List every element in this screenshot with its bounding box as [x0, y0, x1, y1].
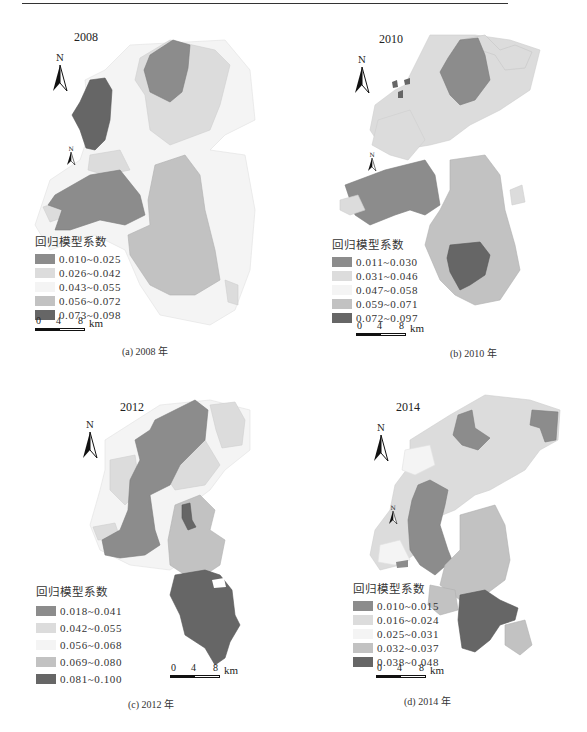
legend-title: 回归模型系数 — [353, 580, 439, 596]
legend-label: 0.042~0.055 — [60, 622, 122, 634]
north-arrow-small-icon: N — [66, 145, 76, 167]
legend-row: 0.010~0.015 — [353, 599, 439, 613]
north-arrow-icon: N — [80, 420, 100, 460]
scale-tick-4: 4 — [397, 662, 402, 673]
scale-unit: km — [410, 322, 424, 334]
legend-row: 0.026~0.042 — [35, 266, 121, 280]
legend-swatch — [332, 299, 352, 309]
legend-swatch — [35, 282, 55, 292]
legend-label: 0.026~0.042 — [59, 267, 121, 279]
legend-label: 0.025~0.031 — [377, 628, 439, 640]
legend-row: 0.042~0.055 — [36, 619, 122, 636]
legend-label: 0.047~0.058 — [356, 284, 418, 296]
north-label: N — [80, 420, 100, 430]
legend: 回归模型系数 0.010~0.025 0.026~0.042 0.043~0.0… — [35, 233, 121, 322]
legend-row: 0.056~0.072 — [35, 294, 121, 308]
scale-bar-black — [35, 328, 59, 331]
legend: 回归模型系数 0.010~0.015 0.016~0.024 0.025~0.0… — [353, 580, 439, 669]
legend-swatch — [353, 615, 373, 625]
north-arrow-small-icon: N — [388, 504, 398, 526]
scale-bar: 0 4 8 km — [356, 320, 436, 344]
scale-tick-4: 4 — [191, 662, 196, 673]
legend-swatch — [36, 623, 56, 633]
figure-caption: (a) 2008 年 — [122, 343, 168, 358]
legend-label: 0.016~0.024 — [377, 614, 439, 626]
scale-tick-8: 8 — [78, 315, 83, 326]
scale-bar: 0 4 8 km — [170, 662, 250, 686]
scale-tick-8: 8 — [419, 662, 424, 673]
north-label: N — [352, 55, 372, 65]
legend-row: 0.016~0.024 — [353, 613, 439, 627]
legend-label: 0.032~0.037 — [377, 642, 439, 654]
page-top-rule — [22, 3, 508, 4]
legend-swatch — [36, 606, 56, 616]
scale-tick-8: 8 — [213, 662, 218, 673]
north-arrow-icon: N — [352, 55, 372, 95]
scale-bar-black — [356, 333, 380, 336]
legend-row: 0.069~0.080 — [36, 653, 122, 670]
legend-swatch — [332, 257, 352, 267]
north-arrow-icon: N — [50, 53, 70, 93]
legend: 回归模型系数 0.018~0.041 0.042~0.055 0.056~0.0… — [36, 583, 122, 687]
legend-swatch — [353, 643, 373, 653]
legend-row: 0.043~0.055 — [35, 280, 121, 294]
map-panel-2010: 2010 N N 回归模型系数 0.011~0.030 0.031~0.046 … — [300, 10, 580, 355]
legend-label: 0.018~0.041 — [60, 605, 122, 617]
scale-bar-black — [170, 675, 194, 678]
legend-swatch — [332, 313, 352, 323]
figure-caption: (b) 2010 年 — [450, 345, 497, 360]
map-panel-2014: 2014 N N 回归模型系数 0.010~0.015 0.016~0.024 … — [300, 380, 580, 725]
legend-swatch — [353, 657, 373, 667]
scale-unit: km — [89, 317, 103, 329]
legend-label: 0.043~0.055 — [59, 281, 121, 293]
north-label: N — [371, 423, 391, 433]
legend-row: 0.010~0.025 — [35, 252, 121, 266]
legend-row: 0.047~0.058 — [332, 283, 418, 297]
map-year-label: 2010 — [379, 32, 403, 47]
scale-tick-0: 0 — [171, 662, 176, 673]
scale-bar: 0 4 8 km — [376, 662, 456, 686]
legend-row: 0.081~0.100 — [36, 670, 122, 687]
map-year-label: 2008 — [74, 30, 98, 45]
map-year-label: 2012 — [120, 400, 144, 415]
legend-label: 0.031~0.046 — [356, 270, 418, 282]
legend-row: 0.031~0.046 — [332, 269, 418, 283]
legend: 回归模型系数 0.011~0.030 0.031~0.046 0.047~0.0… — [332, 236, 418, 325]
legend-label: 0.081~0.100 — [60, 673, 122, 685]
legend-label: 0.069~0.080 — [60, 656, 122, 668]
legend-row: 0.056~0.068 — [36, 636, 122, 653]
legend-label: 0.011~0.030 — [356, 256, 418, 268]
legend-row: 0.011~0.030 — [332, 255, 418, 269]
legend-swatch — [353, 629, 373, 639]
legend-title: 回归模型系数 — [332, 236, 418, 252]
scale-bar: 0 4 8 km — [35, 315, 115, 339]
legend-label: 0.010~0.015 — [377, 600, 439, 612]
north-arrow-icon: N — [371, 423, 391, 463]
scale-bar-white — [194, 675, 220, 678]
figure-caption: (d) 2014 年 — [404, 693, 451, 708]
legend-swatch — [332, 271, 352, 281]
scale-tick-0: 0 — [36, 315, 41, 326]
legend-label: 0.059~0.071 — [356, 298, 418, 310]
figure-caption: (c) 2012 年 — [128, 696, 174, 711]
map-panel-2008: 2008 N N 回归模型系数 0.010~0.025 0.026~0.042 … — [10, 10, 290, 355]
legend-swatch — [35, 254, 55, 264]
legend-label: 0.056~0.072 — [59, 295, 121, 307]
map-year-label: 2014 — [396, 400, 420, 415]
scale-tick-8: 8 — [399, 320, 404, 331]
scale-tick-0: 0 — [357, 320, 362, 331]
legend-swatch — [36, 674, 56, 684]
legend-label: 0.010~0.025 — [59, 253, 121, 265]
scale-bar-white — [59, 328, 85, 331]
legend-swatch — [332, 285, 352, 295]
legend-title: 回归模型系数 — [35, 233, 121, 249]
legend-swatch — [353, 601, 373, 611]
legend-row: 0.025~0.031 — [353, 627, 439, 641]
north-label: N — [50, 53, 70, 63]
scale-tick-4: 4 — [56, 315, 61, 326]
legend-swatch — [35, 268, 55, 278]
scale-unit: km — [430, 664, 444, 676]
legend-row: 0.059~0.071 — [332, 297, 418, 311]
legend-title: 回归模型系数 — [36, 583, 122, 599]
map-panel-2012: 2012 N 回归模型系数 0.018~0.041 0.042~0.055 0.… — [10, 380, 290, 725]
